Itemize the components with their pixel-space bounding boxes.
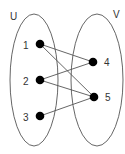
node-3-vertex	[36, 112, 45, 121]
edge-1-4	[40, 44, 93, 62]
set-v-ellipse	[71, 14, 123, 146]
node-5-vertex	[90, 93, 99, 102]
edge-3-5	[40, 97, 94, 116]
node-1-label: 1	[23, 40, 29, 51]
node-2-label: 2	[23, 76, 29, 87]
node-4-vertex	[89, 58, 98, 67]
node-1-vertex	[36, 40, 45, 49]
node-5-label: 5	[105, 92, 111, 103]
node-2-vertex	[36, 76, 45, 85]
set-u-label: U	[10, 11, 17, 22]
node-3-label: 3	[23, 112, 29, 123]
edges-layer	[40, 44, 94, 116]
bipartite-graph-diagram: UV 12345	[0, 0, 125, 154]
diagram-svg: UV 12345	[0, 0, 125, 154]
set-v-label: V	[113, 9, 120, 20]
edge-2-4	[40, 62, 93, 80]
node-4-label: 4	[104, 57, 110, 68]
nodes-layer: 12345	[23, 40, 111, 123]
set-u-ellipse	[10, 14, 58, 146]
